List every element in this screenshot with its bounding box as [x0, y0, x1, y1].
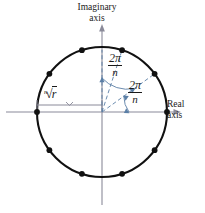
root-point-288deg [119, 171, 125, 177]
imaginary-axis-label-line2: axis [89, 13, 104, 23]
real-axis-label: Real axis [167, 99, 205, 121]
angle-label-lower: 2π n [127, 79, 143, 105]
angle-label-upper-numerator: 2π [107, 52, 123, 65]
radius-label: n√r [42, 86, 57, 102]
figure-canvas: Imaginary axis Real axis 2π n 2π n n√r [0, 0, 205, 213]
real-axis-label-line1: Real [167, 99, 184, 109]
root-point-144deg [47, 71, 53, 77]
imaginary-axis-arrowhead [99, 24, 105, 32]
imaginary-axis-label: Imaginary axis [57, 2, 137, 24]
root-point-36deg [152, 71, 158, 77]
angle-label-upper: 2π n [107, 52, 123, 78]
angle-label-lower-denominator: n [127, 93, 143, 105]
root-point-216deg [47, 147, 53, 153]
radical-index: n [44, 88, 48, 96]
imaginary-axis-label-line1: Imaginary [77, 2, 116, 12]
angle-label-upper-denominator: n [107, 66, 123, 78]
root-point-324deg [152, 147, 158, 153]
angle-label-lower-numerator: 2π [127, 79, 143, 92]
axes-group [6, 24, 181, 205]
root-point-108deg [79, 47, 85, 53]
root-point-252deg [79, 171, 85, 177]
root-point-180deg [34, 109, 40, 115]
radicand: r [52, 86, 58, 101]
real-axis-label-line2: axis [167, 110, 182, 120]
